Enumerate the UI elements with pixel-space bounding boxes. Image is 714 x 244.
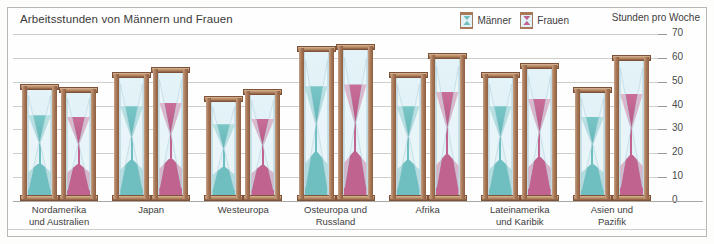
y-tick-mark	[658, 177, 667, 178]
category-label: Nordamerika und Australien	[14, 204, 104, 227]
y-tick-mark	[658, 153, 667, 154]
frame-post	[91, 89, 96, 200]
category-label: Afrika	[383, 204, 473, 216]
hourglass-bar	[430, 53, 465, 201]
chart-legend: Männer Frauen	[460, 12, 569, 29]
sand-stream	[315, 123, 317, 154]
category-label: Lateinamerika und Karibik	[475, 204, 565, 227]
bar-group	[575, 55, 649, 201]
y-tick-label: 30	[672, 122, 683, 133]
sand-stream	[354, 122, 356, 154]
y-tick: 20	[658, 153, 704, 154]
frame-post	[299, 48, 304, 199]
hourglass-icon	[520, 12, 533, 29]
sand-stream	[538, 132, 540, 160]
y-tick-mark	[658, 129, 667, 130]
bar-group	[114, 67, 188, 201]
frame-post	[183, 69, 188, 199]
frame-post	[513, 74, 518, 199]
y-tick-mark	[658, 106, 667, 107]
y-tick-label: 0	[672, 194, 678, 205]
frame-post	[483, 74, 488, 199]
chart-figure: Arbeitsstunden von Männern und Frauen Mä…	[0, 0, 714, 244]
hourglass-bar	[245, 89, 280, 201]
hourglass-bar	[614, 55, 649, 201]
frame-post	[245, 91, 250, 199]
y-tick-label: 10	[672, 170, 683, 181]
frame-post	[575, 89, 580, 200]
frame-post	[114, 74, 119, 199]
frame-post	[552, 65, 557, 199]
sand-stream	[499, 137, 501, 163]
frame-post	[421, 74, 426, 199]
frame-post	[614, 57, 619, 199]
sand-stream	[591, 144, 593, 167]
sand-stream	[78, 144, 80, 167]
hourglass-bar	[114, 72, 149, 201]
frame-post	[61, 89, 66, 200]
legend-label-maenner: Männer	[477, 15, 511, 26]
y-axis-caption: Stunden pro Woche	[612, 12, 700, 23]
y-tick-label: 20	[672, 146, 683, 157]
frame-post	[52, 86, 57, 199]
frame-post	[153, 69, 158, 199]
hourglass-bar	[575, 87, 610, 202]
sand-stream	[170, 134, 172, 161]
y-axis: 010203040506070	[658, 34, 708, 201]
frame-post	[22, 86, 27, 199]
bar-group	[391, 53, 465, 201]
sand-stream	[131, 137, 133, 163]
frame-post	[236, 98, 241, 199]
hourglass-bar	[522, 63, 557, 201]
frame-post	[522, 65, 527, 199]
sand-stream	[39, 143, 41, 166]
y-tick-label: 50	[672, 75, 683, 86]
gridline	[13, 34, 658, 35]
hourglass-bar	[299, 46, 334, 201]
frame-post	[460, 55, 465, 199]
sand-stream	[223, 149, 225, 169]
y-tick-label: 70	[672, 27, 683, 38]
frame-post	[144, 74, 149, 199]
frame-post	[368, 46, 373, 199]
hourglass-bar	[483, 72, 518, 201]
frame-post	[338, 46, 343, 199]
sand-stream	[407, 137, 409, 163]
bar-group	[299, 44, 373, 201]
y-tick-mark	[658, 58, 667, 59]
chart-title: Arbeitsstunden von Männern und Frauen	[20, 13, 233, 25]
sand-stream	[262, 145, 264, 167]
category-label: Osteuropa und Russland	[291, 204, 381, 227]
bar-group	[483, 63, 557, 201]
y-tick: 40	[658, 106, 704, 107]
hourglass-bar	[391, 72, 426, 201]
frame-post	[275, 91, 280, 199]
bar-group	[22, 84, 96, 201]
hourglass-bar	[22, 84, 57, 201]
category-label: Asien und Pazifik	[567, 204, 657, 227]
legend-label-frauen: Frauen	[537, 15, 569, 26]
category-label: Westeuropa	[198, 204, 288, 216]
category-label: Japan	[106, 204, 196, 216]
y-tick: 30	[658, 129, 704, 130]
hourglass-bar	[338, 44, 373, 201]
footer-rule	[8, 229, 706, 230]
frame-post	[644, 57, 649, 199]
y-tick: 60	[658, 58, 704, 59]
y-tick: 10	[658, 177, 704, 178]
plot-area	[13, 34, 658, 201]
y-tick-mark	[658, 34, 667, 35]
legend-item-maenner: Männer	[460, 12, 511, 29]
y-tick: 50	[658, 82, 704, 83]
frame-post	[605, 89, 610, 200]
frame-post	[329, 48, 334, 199]
hourglass-bar	[153, 67, 188, 201]
frame-post	[206, 98, 211, 199]
x-axis-baseline	[13, 201, 703, 202]
frame-post	[391, 74, 396, 199]
y-tick-label: 40	[672, 99, 683, 110]
y-tick-mark	[658, 82, 667, 83]
hourglass-icon	[460, 12, 473, 29]
y-tick-label: 60	[672, 51, 683, 62]
y-tick: 70	[658, 34, 704, 35]
